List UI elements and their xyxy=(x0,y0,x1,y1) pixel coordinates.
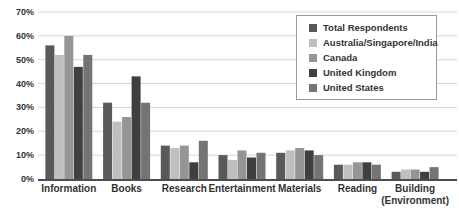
y-axis-tick-label: 70% xyxy=(16,7,34,17)
legend-swatch-icon xyxy=(309,54,317,62)
bar-chart: 0%10%20%30%40%50%60%70%InformationBooksR… xyxy=(0,0,459,215)
bar-canada xyxy=(180,146,189,179)
bar-total-respondents xyxy=(392,172,401,179)
bar-australia-singapore-india xyxy=(286,150,295,179)
bar-united-states xyxy=(141,103,150,179)
bar-united-kingdom xyxy=(74,67,83,179)
bar-canada xyxy=(64,36,73,179)
legend-label: United States xyxy=(323,82,384,93)
bar-australia-singapore-india xyxy=(343,165,352,179)
x-axis-category-label: Entertainment xyxy=(208,183,276,194)
bar-canada xyxy=(411,170,420,180)
bar-united-kingdom xyxy=(305,150,314,179)
bar-united-kingdom xyxy=(420,172,429,179)
x-axis-category-label: Information xyxy=(41,183,96,194)
bar-australia-singapore-india xyxy=(170,148,179,179)
y-axis-tick-label: 10% xyxy=(16,150,34,160)
bar-canada xyxy=(295,148,304,179)
bar-united-states xyxy=(314,155,323,179)
x-axis-category-label: Books xyxy=(111,183,142,194)
x-axis-category-label: Reading xyxy=(338,183,377,194)
bar-united-kingdom xyxy=(247,158,256,180)
legend-swatch-icon xyxy=(309,84,317,92)
bar-total-respondents xyxy=(334,165,343,179)
bar-australia-singapore-india xyxy=(228,160,237,179)
legend-item: Australia/Singapore/India xyxy=(309,35,436,50)
bar-canada xyxy=(238,150,247,179)
legend-label: United Kingdom xyxy=(323,67,396,78)
legend-swatch-icon xyxy=(309,39,317,47)
bar-united-states xyxy=(257,153,266,179)
bar-total-respondents xyxy=(219,155,228,179)
legend-label: Total Respondents xyxy=(323,22,408,33)
y-axis-tick-label: 50% xyxy=(16,55,34,65)
legend-item: United States xyxy=(309,80,436,95)
legend-item: Total Respondents xyxy=(309,20,436,35)
y-axis-tick-label: 0% xyxy=(21,174,34,184)
bar-total-respondents xyxy=(45,45,54,179)
y-axis-tick-label: 20% xyxy=(16,126,34,136)
bar-united-states xyxy=(372,165,381,179)
y-axis-tick-label: 60% xyxy=(16,31,34,41)
bar-united-kingdom xyxy=(132,76,141,179)
bar-united-states xyxy=(199,141,208,179)
bar-total-respondents xyxy=(103,103,112,179)
y-axis-tick-label: 30% xyxy=(16,102,34,112)
bar-united-kingdom xyxy=(362,162,371,179)
bar-united-states xyxy=(83,55,92,179)
bar-total-respondents xyxy=(161,146,170,179)
bar-united-kingdom xyxy=(189,162,198,179)
legend-swatch-icon xyxy=(309,69,317,77)
y-axis-tick-label: 40% xyxy=(16,79,34,89)
bar-united-states xyxy=(430,167,439,179)
legend-swatch-icon xyxy=(309,24,317,32)
bar-australia-singapore-india xyxy=(401,170,410,180)
bar-total-respondents xyxy=(276,153,285,179)
legend: Total RespondentsAustralia/Singapore/Ind… xyxy=(296,15,437,100)
bar-canada xyxy=(122,117,131,179)
x-axis-category-label: Research xyxy=(162,183,207,194)
legend-label: Canada xyxy=(323,52,357,63)
x-axis-category-label: Materials xyxy=(278,183,322,194)
x-axis-category-label: Building(Environment) xyxy=(381,183,449,206)
bar-australia-singapore-india xyxy=(55,55,64,179)
bar-australia-singapore-india xyxy=(113,122,122,179)
legend-item: Canada xyxy=(309,50,436,65)
legend-item: United Kingdom xyxy=(309,65,436,80)
bar-canada xyxy=(353,162,362,179)
legend-label: Australia/Singapore/India xyxy=(323,37,438,48)
